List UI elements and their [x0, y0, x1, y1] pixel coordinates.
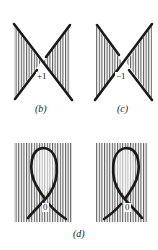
figure-b-crossing — [14, 24, 72, 100]
hatched-region-left — [14, 26, 41, 98]
knot-crossing-diagram — [0, 0, 158, 250]
crossing-sign-d-left: 0 — [42, 203, 49, 212]
hatched-region-right — [43, 26, 70, 98]
crossing-sign-c: −1 — [115, 72, 127, 81]
crossing-sign-b: +1 — [36, 72, 48, 81]
figure-c-crossing — [95, 24, 152, 100]
hatched-region-right — [126, 26, 152, 98]
figure-d-right-loop — [96, 143, 148, 222]
caption-b: (b) — [35, 104, 47, 114]
hatched-region-left — [96, 26, 122, 98]
crossing-sign-d-right: 0 — [124, 203, 131, 212]
caption-c: (c) — [117, 104, 128, 114]
caption-d: (d) — [73, 229, 85, 239]
